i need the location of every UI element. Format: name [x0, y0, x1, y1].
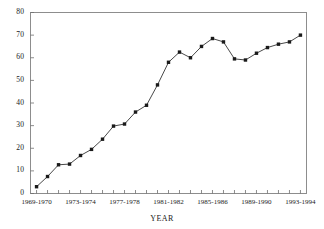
y-tick-label: 30 — [2, 121, 24, 129]
data-point-marker — [244, 58, 247, 61]
chart-container: 01020304050607080 1969-19701973-19741977… — [0, 0, 324, 229]
data-point-marker — [101, 138, 104, 141]
data-point-marker — [299, 33, 302, 36]
data-point-marker — [266, 46, 269, 49]
x-axis-ticks — [37, 190, 301, 194]
data-point-marker — [57, 163, 60, 166]
y-tick-label: 0 — [2, 189, 24, 197]
x-tick-label: 1993-1994 — [272, 198, 324, 206]
data-point-marker — [277, 42, 280, 45]
y-tick-label: 10 — [2, 166, 24, 174]
chart-svg — [0, 0, 324, 229]
data-point-marker — [35, 185, 38, 188]
data-point-marker — [189, 56, 192, 59]
data-point-marker — [134, 110, 137, 113]
data-point-marker — [211, 37, 214, 40]
data-point-marker — [68, 162, 71, 165]
data-point-marker — [112, 124, 115, 127]
y-tick-label: 60 — [2, 53, 24, 61]
data-point-marker — [79, 154, 82, 157]
x-axis-title: YEAR — [0, 214, 324, 223]
y-axis-ticks — [31, 13, 35, 194]
data-point-marker — [233, 57, 236, 60]
data-series-line — [37, 35, 301, 187]
y-tick-label: 70 — [2, 31, 24, 39]
data-point-marker — [288, 40, 291, 43]
data-point-markers — [35, 33, 302, 188]
data-point-marker — [145, 104, 148, 107]
y-tick-label: 40 — [2, 99, 24, 107]
data-point-marker — [167, 61, 170, 64]
data-point-marker — [200, 45, 203, 48]
data-point-marker — [123, 122, 126, 125]
data-point-marker — [222, 40, 225, 43]
data-point-marker — [90, 148, 93, 151]
y-tick-label: 50 — [2, 76, 24, 84]
data-point-marker — [156, 83, 159, 86]
y-tick-label: 20 — [2, 144, 24, 152]
y-tick-label: 80 — [2, 8, 24, 16]
data-point-marker — [178, 50, 181, 53]
data-point-marker — [255, 52, 258, 55]
data-point-marker — [46, 175, 49, 178]
